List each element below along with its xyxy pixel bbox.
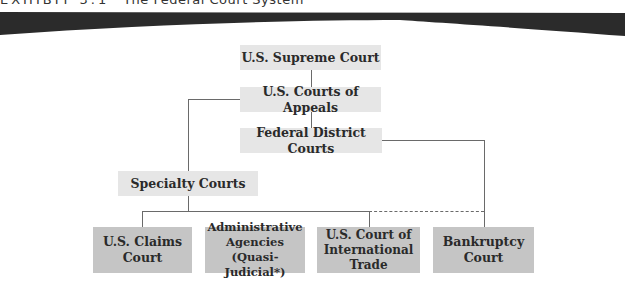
label-supreme-court: U.S. Supreme Court bbox=[241, 50, 379, 66]
label-trade-line3: Trade bbox=[349, 258, 387, 273]
label-bankruptcy-line1: Bankruptcy bbox=[443, 234, 524, 250]
box-courts-of-appeals: U.S. Courts of Appeals bbox=[240, 87, 381, 112]
box-supreme-court: U.S. Supreme Court bbox=[240, 45, 381, 70]
label-specialty-courts: Specialty Courts bbox=[130, 176, 245, 192]
connector-claims bbox=[142, 211, 143, 227]
box-district-courts: Federal District Courts bbox=[240, 128, 382, 153]
dashed-connector-trade-bankruptcy bbox=[369, 211, 484, 212]
label-claims-line1: U.S. Claims bbox=[103, 234, 182, 250]
label-trade-line2: International bbox=[324, 243, 414, 258]
label-claims-line2: Court bbox=[123, 250, 163, 266]
box-claims-court: U.S. Claims Court bbox=[93, 227, 192, 273]
connector-appeals-left bbox=[188, 99, 240, 100]
connector-to-specialty bbox=[188, 99, 189, 171]
connector-district-right bbox=[382, 140, 484, 141]
box-bankruptcy-court: Bankruptcy Court bbox=[433, 227, 534, 273]
box-international-trade: U.S. Court of International Trade bbox=[317, 227, 420, 273]
connector-trade bbox=[369, 211, 370, 227]
box-specialty-courts: Specialty Courts bbox=[118, 171, 258, 196]
label-admin-line1: Administrative bbox=[207, 220, 302, 235]
label-courts-of-appeals: U.S. Courts of Appeals bbox=[240, 84, 381, 116]
label-district-courts: Federal District Courts bbox=[240, 125, 382, 157]
label-trade-line1: U.S. Court of bbox=[326, 228, 412, 243]
banner-swoosh bbox=[0, 0, 627, 40]
box-administrative-agencies: Administrative Agencies (Quasi-Judicial*… bbox=[205, 227, 305, 273]
connector-to-bankruptcy bbox=[484, 140, 485, 227]
label-bankruptcy-line2: Court bbox=[464, 250, 504, 266]
label-admin-line2: Agencies bbox=[226, 235, 284, 250]
connector-specialty-horizontal bbox=[142, 211, 369, 212]
label-admin-line3: (Quasi-Judicial*) bbox=[205, 250, 305, 280]
connector-specialty-down bbox=[188, 196, 189, 212]
